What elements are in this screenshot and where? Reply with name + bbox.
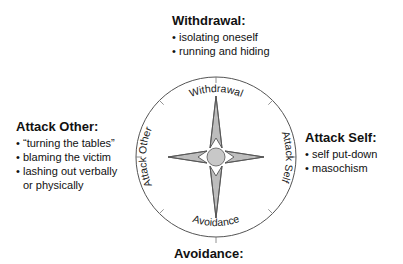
bullet-icon: • [172,30,179,44]
attack-self-item: •masochism [305,161,377,175]
item-text: self put-down [312,148,377,160]
bullet-icon: • [16,136,23,150]
avoidance-heading: Avoidance: [174,246,244,261]
attack-other-item-continuation: or physically [16,178,117,192]
ring-label-attack-other: Attack Other [136,124,154,189]
item-text: isolating oneself [179,31,258,43]
bullet-icon: • [16,150,23,164]
item-text: lashing out verbally [23,165,117,177]
attack-self-block: Attack Self: •self put-down •masochism [305,130,377,175]
withdrawal-heading: Withdrawal: [172,13,270,28]
attack-other-heading: Attack Other: [16,119,117,134]
attack-self-item: •self put-down [305,147,377,161]
withdrawal-block: Withdrawal: •isolating oneself •running … [172,13,270,58]
attack-other-item: •lashing out verbally [16,164,117,178]
bullet-icon: • [16,164,23,178]
compass-center [207,148,225,166]
bullet-icon: • [172,44,179,58]
item-text: masochism [312,162,368,174]
avoidance-block: Avoidance: [174,246,244,261]
attack-other-item: •blaming the victim [16,150,117,164]
bullet-icon: • [305,161,312,175]
item-text: “turning the tables” [23,137,115,149]
item-text: blaming the victim [23,151,111,163]
withdrawal-item: •running and hiding [172,44,270,58]
attack-other-item: •“turning the tables” [16,136,117,150]
attack-self-heading: Attack Self: [305,130,377,145]
item-text: running and hiding [179,45,270,57]
withdrawal-item: •isolating oneself [172,30,270,44]
attack-other-block: Attack Other: •“turning the tables” •bla… [16,119,117,192]
bullet-icon: • [305,147,312,161]
